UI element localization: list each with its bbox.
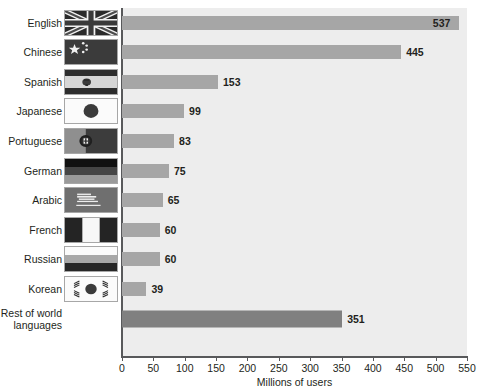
x-axis-tick-label: 350: [333, 362, 351, 374]
chart-row: English 537: [0, 8, 480, 37]
flag-egypt-icon: [64, 187, 118, 213]
x-axis-tick: [373, 356, 374, 361]
x-axis-line: [121, 356, 467, 358]
x-axis-tick: [279, 356, 280, 361]
flag-korea-icon: [64, 276, 118, 302]
x-axis-tick-label: 200: [239, 362, 257, 374]
x-axis-tick-label: 0: [119, 362, 125, 374]
chart-row: Chinese 445: [0, 38, 480, 67]
category-label: German: [0, 165, 62, 177]
bar-value-label: 83: [179, 135, 191, 147]
chart-row: French 60: [0, 215, 480, 244]
x-axis-tick: [216, 356, 217, 361]
x-axis-tick: [185, 356, 186, 361]
bar: [122, 282, 146, 296]
bar-value-label: 60: [165, 224, 177, 236]
bar-value-label: 153: [223, 76, 241, 88]
flag-china-icon: [64, 39, 118, 65]
bar: [122, 164, 169, 178]
x-axis-tick-label: 50: [148, 362, 160, 374]
category-label: English: [0, 17, 62, 29]
x-axis-tick-label: 500: [427, 362, 445, 374]
chart-row: Spanish 153: [0, 67, 480, 96]
x-axis-tick-label: 400: [364, 362, 382, 374]
bar: [122, 252, 160, 266]
chart-row: Korean 39: [0, 274, 480, 303]
x-axis-tick-label: 250: [270, 362, 288, 374]
flag-uk-icon: [64, 10, 118, 36]
x-axis-tick: [247, 356, 248, 361]
bar: [122, 104, 184, 118]
category-label: French: [0, 224, 62, 236]
flag-russia-icon: [64, 246, 118, 272]
x-axis-title: Millions of users: [122, 376, 467, 388]
x-axis-tick: [153, 356, 154, 361]
x-axis-tick-label: 550: [458, 362, 476, 374]
bar: [122, 75, 218, 89]
category-label: Russian: [0, 253, 62, 265]
chart-row: German 75: [0, 156, 480, 185]
x-axis-tick-label: 150: [207, 362, 225, 374]
bar: [122, 134, 174, 148]
x-axis-tick: [436, 356, 437, 361]
bar-value-label: 75: [174, 165, 186, 177]
category-label: Spanish: [0, 76, 62, 88]
bar-value-label: 537: [433, 17, 451, 29]
flag-france-icon: [64, 217, 118, 243]
bar: [122, 310, 342, 327]
bar-chart: English 537Chinese 445Spanish 153Japanes…: [0, 0, 480, 391]
category-label: Korean: [0, 283, 62, 295]
flag-japan-icon: [64, 98, 118, 124]
chart-row: Russian 60: [0, 245, 480, 274]
category-label: Chinese: [0, 46, 62, 58]
chart-row: Rest of world languages351: [0, 304, 480, 333]
flag-portugal-icon: [64, 128, 118, 154]
bar: [122, 193, 163, 207]
x-axis-tick: [467, 356, 468, 361]
bar-value-label: 351: [347, 313, 365, 325]
x-axis-tick-label: 450: [396, 362, 414, 374]
flag-spain-icon: [64, 69, 118, 95]
category-label: Japanese: [0, 105, 62, 117]
category-label: Rest of world languages: [0, 307, 62, 331]
bar: [122, 45, 401, 59]
category-label: Portuguese: [0, 135, 62, 147]
x-axis-tick: [342, 356, 343, 361]
bar-value-label: 60: [165, 253, 177, 265]
x-axis-tick-label: 100: [176, 362, 194, 374]
bar-value-label: 445: [406, 46, 424, 58]
bar-value-label: 99: [189, 105, 201, 117]
bar-value-label: 65: [168, 194, 180, 206]
bar: [122, 16, 459, 30]
chart-row: Japanese 99: [0, 97, 480, 126]
chart-row: Arabic 65: [0, 186, 480, 215]
x-axis-tick: [122, 356, 123, 361]
bar: [122, 223, 160, 237]
bar-value-label: 39: [151, 283, 163, 295]
x-axis-tick: [404, 356, 405, 361]
chart-row: Portuguese 83: [0, 126, 480, 155]
category-label: Arabic: [0, 194, 62, 206]
flag-germany-icon: [64, 158, 118, 184]
x-axis-tick: [310, 356, 311, 361]
x-axis-tick-label: 300: [301, 362, 319, 374]
